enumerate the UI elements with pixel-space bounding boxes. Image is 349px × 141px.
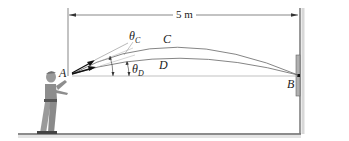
point-d-label: D xyxy=(159,59,168,71)
trajectory-d xyxy=(72,58,298,75)
angle-arrow-d-bottom xyxy=(128,72,131,76)
velocity-arrowhead-d xyxy=(88,66,96,71)
dimension-label: 5 m xyxy=(173,9,196,20)
dimension-arrow-left xyxy=(69,13,76,17)
trajectory-c xyxy=(72,47,298,75)
theta-d-subscript: D xyxy=(138,69,144,78)
projectile-diagram xyxy=(0,0,349,141)
theta-c-subscript: C xyxy=(135,36,140,45)
person-figure xyxy=(37,71,68,134)
wall-shadow xyxy=(302,8,305,134)
point-c-label: C xyxy=(163,33,171,45)
point-a-label: A xyxy=(59,67,66,79)
tangent-d-line xyxy=(100,55,135,66)
theta-c-label: θC xyxy=(129,30,140,45)
theta-d-label: θD xyxy=(132,63,144,78)
angle-arrow-c-bottom xyxy=(112,72,115,76)
ground-shadow xyxy=(18,135,301,138)
dimension-arrow-right xyxy=(291,13,298,17)
tangent-c-line-2 xyxy=(98,48,133,62)
point-b-label: B xyxy=(287,78,294,90)
